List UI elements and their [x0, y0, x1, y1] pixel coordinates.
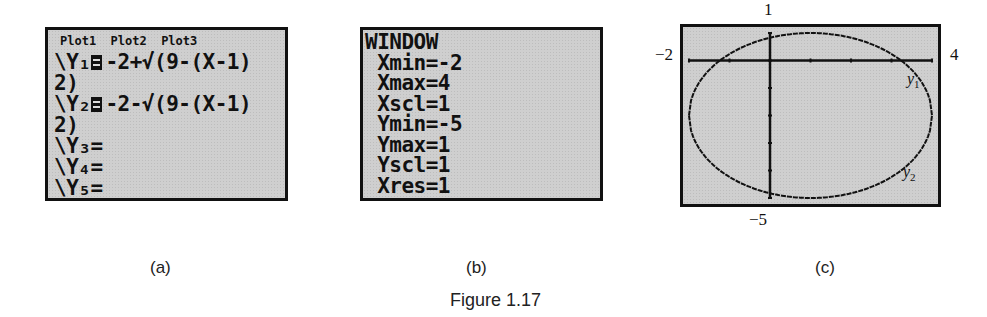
y-editor-line: \Y₂-2-√(9-(X-1): [54, 94, 251, 115]
y-editor-line: \Y₄=: [54, 157, 103, 178]
plots-header: Plot1 Plot2 Plot3: [60, 34, 197, 48]
graph-label-left: −2: [655, 45, 673, 65]
sublabel-a: (a): [150, 258, 171, 278]
curve-label-y1: y1: [907, 70, 920, 90]
equals-selected-icon: [91, 55, 102, 70]
figure-caption: Figure 1.17: [450, 290, 541, 311]
window-settings-screen: WINDOW Xmin=-2 Xmax=4 Xscl=1 Ymin=-5 Yma…: [360, 27, 603, 201]
window-setting: Xres=1: [365, 176, 450, 197]
equals-selected-icon: [91, 97, 102, 112]
window-setting: Xmax=4: [365, 73, 450, 94]
window-setting: Ymin=-5: [365, 114, 462, 135]
window-setting: Yscl=1: [365, 155, 450, 176]
y-editor-line: \Y₅=: [54, 178, 103, 199]
graph-label-right: 4: [950, 45, 959, 65]
sublabel-b: (b): [466, 258, 487, 278]
graph-label-bottom: −5: [749, 210, 767, 230]
sublabel-c: (c): [815, 258, 835, 278]
y-editor-line: 2): [54, 73, 78, 94]
y-editor-line: 2): [54, 115, 78, 136]
graph-label-top: 1: [764, 0, 773, 20]
circle-graph: [683, 27, 938, 204]
y-editor-line: \Y₃=: [54, 136, 103, 157]
graph-screen: y1 y2: [680, 24, 941, 207]
y-editor-line: \Y₁-2+√(9-(X-1): [54, 52, 251, 73]
curve-label-y2: y2: [903, 163, 916, 183]
window-title: WINDOW: [365, 32, 438, 53]
y-editor-screen: Plot1 Plot2 Plot3 \Y₁-2+√(9-(X-1)2)\Y₂-2…: [45, 27, 288, 201]
